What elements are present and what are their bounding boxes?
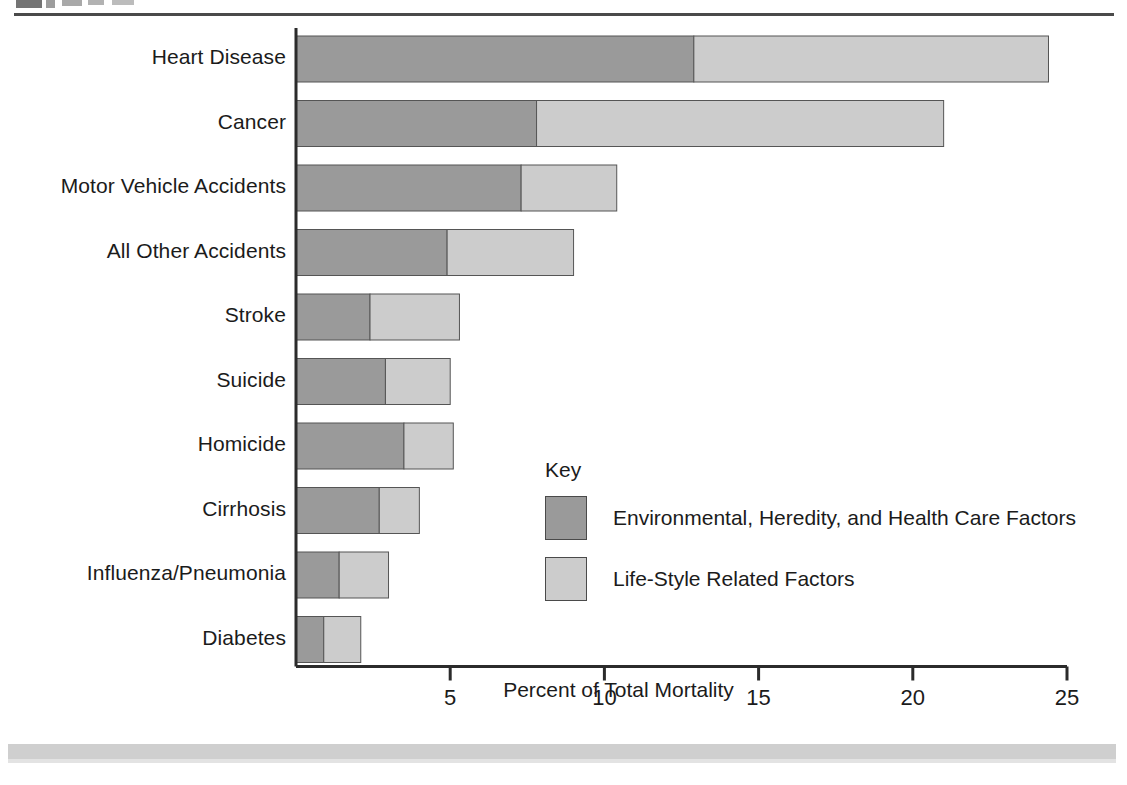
category-label: Influenza/Pneumonia <box>0 561 286 585</box>
category-label: Suicide <box>0 368 286 392</box>
legend-item-lifestyle: Life-Style Related Factors <box>545 557 1105 601</box>
x-axis-title: Percent of Total Mortality <box>0 678 1127 702</box>
legend-title: Key <box>545 458 1105 482</box>
category-label: Stroke <box>0 303 286 327</box>
bar-segment <box>296 101 537 147</box>
footer-gray-band <box>8 744 1116 759</box>
category-label: Homicide <box>0 432 286 456</box>
bar-segment <box>385 359 450 405</box>
bar-segment <box>296 165 521 211</box>
legend-item-environmental: Environmental, Heredity, and Health Care… <box>545 496 1105 540</box>
legend-swatch-environmental <box>545 496 587 540</box>
bar-segment <box>296 230 447 276</box>
bar-segment <box>379 488 419 534</box>
bar-segment <box>296 617 324 663</box>
bar-segment <box>296 294 370 340</box>
page-header-remnant <box>16 0 246 9</box>
category-label: Diabetes <box>0 626 286 650</box>
bar-segment <box>324 617 361 663</box>
legend-label-lifestyle: Life-Style Related Factors <box>613 567 855 591</box>
legend-swatch-lifestyle <box>545 557 587 601</box>
legend-label-environmental: Environmental, Heredity, and Health Care… <box>613 506 1076 530</box>
bar-segment <box>339 552 388 598</box>
bar-segment <box>296 423 404 469</box>
bar-segment <box>447 230 573 276</box>
bar-segment <box>521 165 617 211</box>
bar-segment <box>296 488 379 534</box>
bar-segment <box>370 294 459 340</box>
category-label: All Other Accidents <box>0 239 286 263</box>
category-label: Cirrhosis <box>0 497 286 521</box>
x-axis-title-text: Percent of Total Mortality <box>503 678 734 701</box>
bar-segment <box>404 423 453 469</box>
chart-legend: Key Environmental, Heredity, and Health … <box>545 458 1105 618</box>
category-label: Cancer <box>0 110 286 134</box>
bar-segment <box>296 359 385 405</box>
top-horizontal-rule <box>14 13 1114 16</box>
bar-segment <box>537 101 944 147</box>
stacked-bar-chart: Heart DiseaseCancerMotor Vehicle Acciden… <box>0 18 1127 718</box>
bar-segment <box>694 36 1049 82</box>
bar-segment <box>296 36 694 82</box>
bar-segment <box>296 552 339 598</box>
footer-gray-band-light <box>8 759 1116 763</box>
category-label: Motor Vehicle Accidents <box>0 174 286 198</box>
category-label: Heart Disease <box>0 45 286 69</box>
